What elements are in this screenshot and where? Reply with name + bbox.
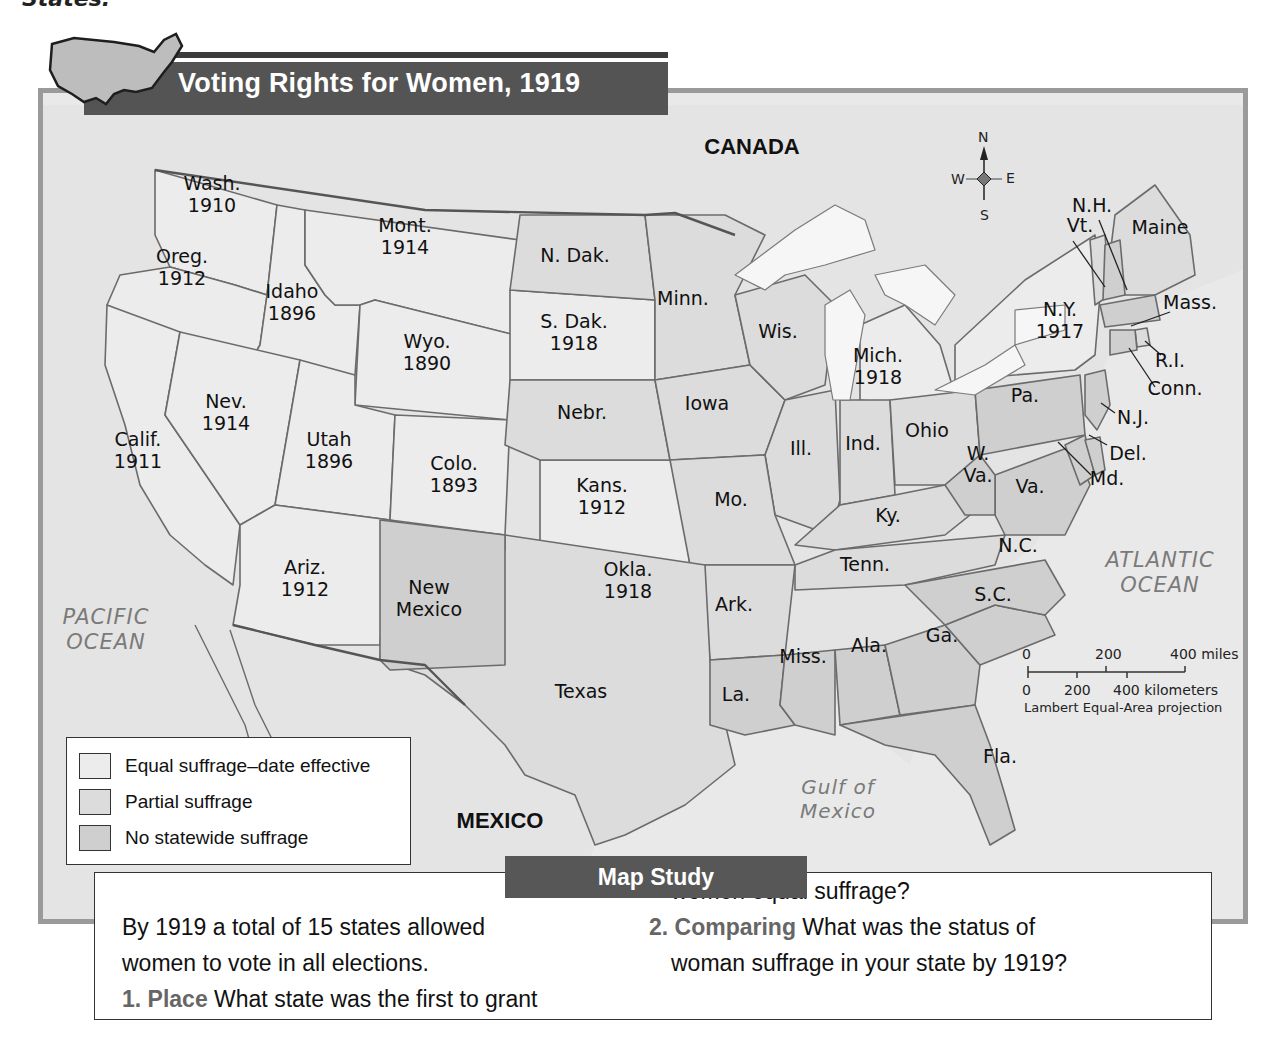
state-label-mass: Mass. xyxy=(1163,291,1217,313)
state-label-wis: Wis. xyxy=(758,320,798,342)
state-label-kans: Kans.1912 xyxy=(576,474,628,518)
state-label-ri: R.I. xyxy=(1155,349,1185,371)
state-label-mich: Mich.1918 xyxy=(853,344,903,388)
state-label-new-mexico: NewMexico xyxy=(396,576,462,620)
water-label-pacific: PACIFICOCEAN xyxy=(63,605,150,655)
map-legend: Equal suffrage–date effective Partial su… xyxy=(66,737,411,865)
state-label-nev: Nev.1914 xyxy=(202,390,250,434)
water-label-atlantic: ATLANTICOCEAN xyxy=(1105,548,1214,598)
state-label-md: Md. xyxy=(1090,467,1125,489)
intro-line-2: women to vote in all elections. xyxy=(122,945,538,981)
state-label-ohio: Ohio xyxy=(905,419,949,441)
state-label-calif: Calif.1911 xyxy=(114,428,162,472)
state-label-n-dak: N. Dak. xyxy=(540,244,610,266)
legend-item-partial: Partial suffrage xyxy=(79,784,410,820)
legend-swatch-none xyxy=(79,825,111,851)
svg-text:E: E xyxy=(1006,170,1015,186)
state-label-conn: Conn. xyxy=(1147,377,1202,399)
svg-text:W: W xyxy=(951,171,965,187)
state-label-minn: Minn. xyxy=(657,287,709,309)
state-label-nh: N.H. xyxy=(1072,194,1112,216)
state-label-nc: N.C. xyxy=(998,534,1038,556)
map-study-left-column: By 1919 a total of 15 states allowed wom… xyxy=(122,909,538,1017)
map-study-title: Map Study xyxy=(505,856,807,898)
state-label-ny: N.Y.1917 xyxy=(1036,298,1084,342)
us-silhouette-icon xyxy=(44,32,194,112)
state-label-ky: Ky. xyxy=(875,504,901,526)
svg-text:S: S xyxy=(980,207,989,223)
state-label-wash: Wash.1910 xyxy=(183,172,240,216)
state-label-nebr: Nebr. xyxy=(557,401,607,423)
state-label-mo: Mo. xyxy=(714,488,748,510)
country-label-canada: CANADA xyxy=(704,134,799,160)
state-label-utah: Utah1896 xyxy=(305,428,353,472)
state-label-wyo: Wyo.1890 xyxy=(403,330,451,374)
scale-bar: 0 200 400 miles 0 200 400 kilometers Lam… xyxy=(1020,640,1250,720)
country-label-mexico: MEXICO xyxy=(457,808,544,834)
question-2-line-2: woman suffrage in your state by 1919? xyxy=(649,945,1067,981)
state-label-fla: Fla. xyxy=(983,745,1017,767)
legend-swatch-partial xyxy=(79,789,111,815)
state-label-idaho: Idaho1896 xyxy=(266,280,319,324)
state-label-miss: Miss. xyxy=(779,645,827,667)
state-label-ga: Ga. xyxy=(926,624,958,646)
state-label-tenn: Tenn. xyxy=(840,553,890,575)
intro-line-1: By 1919 a total of 15 states allowed xyxy=(122,909,538,945)
state-label-texas: Texas xyxy=(555,680,608,702)
state-label-s-dak: S. Dak.1918 xyxy=(540,310,607,354)
state-label-sc: S.C. xyxy=(974,583,1011,605)
state-label-va: Va. xyxy=(1015,475,1044,497)
state-label-la: La. xyxy=(722,683,750,705)
state-label-ill: Ill. xyxy=(790,437,812,459)
question-1-line-1: 1. Place What state was the first to gra… xyxy=(122,981,538,1017)
legend-item-equal: Equal suffrage–date effective xyxy=(79,748,410,784)
state-label-vt: Vt. xyxy=(1067,214,1094,236)
compass-rose-icon: N W E S xyxy=(948,128,1028,228)
state-label-oreg: Oreg.1912 xyxy=(156,245,208,289)
state-label-iowa: Iowa xyxy=(685,392,729,414)
state-label-ala: Ala. xyxy=(851,634,887,656)
question-2-line-1: 2. Comparing What was the status of xyxy=(649,909,1067,945)
legend-swatch-equal xyxy=(79,753,111,779)
state-label-colo: Colo.1893 xyxy=(430,452,478,496)
state-label-okla: Okla.1918 xyxy=(604,558,653,602)
state-label-ind: Ind. xyxy=(845,432,881,454)
map-title: Voting Rights for Women, 1919 xyxy=(178,68,580,99)
state-label-pa: Pa. xyxy=(1011,384,1039,406)
water-label-gulf-of-mexico: Gulf ofMexico xyxy=(800,775,876,823)
state-label-mont: Mont.1914 xyxy=(378,214,432,258)
state-label-maine: Maine xyxy=(1131,216,1188,238)
state-label-ariz: Ariz.1912 xyxy=(281,556,329,600)
svg-text:N: N xyxy=(978,129,988,145)
title-rule xyxy=(118,52,668,58)
state-label-ark: Ark. xyxy=(715,593,753,615)
state-label-nj: N.J. xyxy=(1117,406,1149,428)
previous-page-text-fragment: States. xyxy=(22,0,110,11)
legend-item-none: No statewide suffrage xyxy=(79,820,410,856)
state-label-del: Del. xyxy=(1109,442,1147,464)
state-label-w-va: W.Va. xyxy=(963,442,992,486)
